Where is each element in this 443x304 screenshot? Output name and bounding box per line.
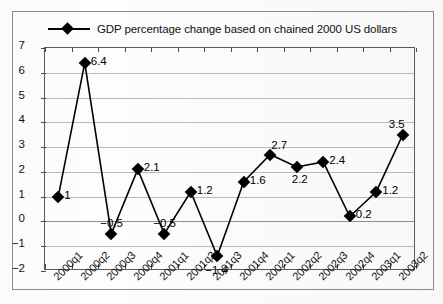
- data-point-label: 1: [64, 189, 70, 201]
- legend-label: GDP percentage change based on chained 2…: [97, 23, 397, 35]
- y-tick-label: 3: [0, 138, 25, 150]
- data-point-label: 2.7: [271, 139, 287, 151]
- x-axis-labels: 2000q12000q22000q32000q42001q12001q22001…: [44, 272, 415, 304]
- y-tick-label: −1: [0, 237, 25, 249]
- data-point-label: 2.1: [144, 161, 160, 173]
- y-tick-label: 5: [0, 89, 25, 101]
- y-tick-label: 6: [0, 64, 25, 76]
- legend-line-swatch: [48, 28, 90, 30]
- y-tick-label: −2: [0, 262, 25, 274]
- chart-legend: GDP percentage change based on chained 2…: [48, 20, 397, 38]
- data-point-label: 0.2: [356, 208, 372, 220]
- chart-figure: GDP percentage change based on chained 2…: [0, 0, 443, 304]
- y-tick-label: 0: [0, 212, 25, 224]
- data-point-label: 2.4: [329, 154, 345, 166]
- data-point-label: 1.6: [250, 174, 266, 186]
- plot-area: 16.4−0.52.1−0.51.2−1.41.62.72.22.40.21.2…: [44, 47, 415, 270]
- data-point-label: 6.4: [91, 55, 107, 67]
- legend-diamond-marker: [61, 22, 74, 35]
- y-tick-label: 2: [0, 163, 25, 175]
- data-point-label: −0.5: [153, 217, 176, 229]
- series-line: [45, 48, 416, 271]
- y-tick-label: 1: [0, 188, 25, 200]
- x-tick-mark-top: [416, 48, 417, 52]
- data-point-label: 2.2: [292, 173, 308, 185]
- y-tick-label: 7: [0, 39, 25, 51]
- y-tick-label: 4: [0, 113, 25, 125]
- data-point-label: 3.5: [389, 118, 405, 130]
- data-point-label: 1.2: [382, 184, 398, 196]
- data-point-label: 1.2: [197, 184, 213, 196]
- data-point-label: −0.5: [100, 217, 123, 229]
